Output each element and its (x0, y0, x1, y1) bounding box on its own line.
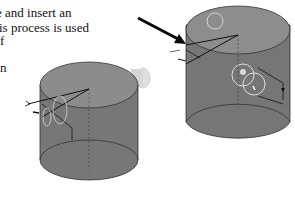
right-cylinder-figure (0, 0, 295, 207)
right-cylinder-illustration (0, 0, 295, 207)
document-page: e and insert an is process is used f n (0, 0, 295, 207)
